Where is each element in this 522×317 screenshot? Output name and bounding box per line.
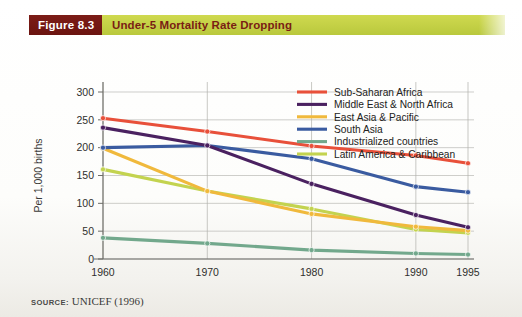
data-point	[465, 225, 470, 230]
data-point	[309, 206, 314, 211]
source-note: SOURCE:UNICEF (1996)	[31, 291, 144, 309]
data-point	[309, 143, 314, 148]
figure-number-tag: Figure 8.3	[29, 15, 102, 35]
data-point	[309, 156, 314, 161]
data-point	[100, 167, 105, 172]
x-tick-label: 1980	[300, 266, 324, 278]
y-tick-label: 100	[76, 197, 94, 209]
data-point	[413, 224, 418, 229]
source-value: UNICEF (1996)	[72, 295, 144, 307]
series-line	[103, 238, 468, 255]
data-point	[413, 184, 418, 189]
x-tick-label: 1995	[456, 266, 480, 278]
y-tick-label: 0	[88, 253, 94, 265]
legend-label: Middle East & North Africa	[334, 99, 453, 110]
figure-page: Figure 8.3 Under-5 Mortality Rate Droppi…	[0, 0, 522, 317]
data-point	[100, 235, 105, 240]
data-point	[465, 161, 470, 166]
chart-area: 05010015020025030019601970198019901995Pe…	[0, 36, 522, 281]
data-point	[413, 251, 418, 256]
data-point	[100, 125, 105, 130]
legend-label: South Asia	[334, 124, 383, 135]
y-tick-label: 250	[76, 114, 94, 126]
series-line	[103, 169, 468, 232]
y-tick-label: 300	[76, 86, 94, 98]
legend-label: Latin America & Caribbean	[334, 149, 455, 160]
y-axis-label: Per 1,000 births	[32, 138, 44, 212]
source-label: SOURCE:	[31, 298, 69, 307]
data-point	[100, 145, 105, 150]
data-point	[309, 211, 314, 216]
x-tick-label: 1970	[196, 266, 220, 278]
data-point	[205, 188, 210, 193]
data-point	[309, 247, 314, 252]
series-line	[103, 148, 468, 230]
legend-label: Sub-Saharan Africa	[334, 87, 423, 98]
data-point	[100, 116, 105, 121]
y-tick-label: 50	[82, 225, 94, 237]
x-tick-label: 1960	[91, 266, 115, 278]
x-tick-label: 1990	[404, 266, 428, 278]
legend-label: East Asia & Pacific	[334, 112, 419, 123]
line-chart: 05010015020025030019601970198019901995Pe…	[0, 36, 522, 281]
data-point	[465, 252, 470, 257]
data-point	[465, 190, 470, 195]
data-point	[205, 129, 210, 134]
y-tick-label: 150	[76, 169, 94, 181]
y-tick-label: 200	[76, 141, 94, 153]
data-point	[205, 241, 210, 246]
data-point	[205, 143, 210, 148]
legend-label: Industrialized countries	[334, 136, 438, 147]
data-point	[309, 181, 314, 186]
figure-title: Under-5 Mortality Rate Dropping	[112, 15, 292, 35]
data-point	[413, 212, 418, 217]
